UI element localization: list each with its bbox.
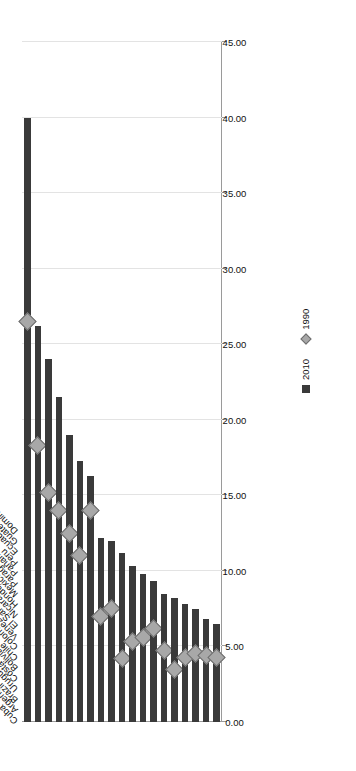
bar-group [35,326,42,722]
legend-diamond-icon [300,333,311,344]
bar-2010 [108,541,115,722]
chart-legend: 20101990 [300,309,311,393]
value-axis-tick-label: 10.00 [215,565,255,576]
bar-2010 [45,359,52,722]
bar-2010 [24,118,31,722]
chart-figure-rotator: CubaArgentinaBrazilUruguayCosta RicaBoli… [0,0,356,771]
value-axis-tick-label: 35.00 [215,188,255,199]
bar-2010 [119,553,126,722]
value-axis-tick-label: 20.00 [215,414,255,425]
value-axis-tick-label: 15.00 [215,490,255,501]
bar-2010 [66,435,73,722]
bar-group [56,397,63,722]
value-axis-tick-label: 40.00 [215,112,255,123]
bar-group [45,359,52,722]
bar-group [213,624,220,722]
legend-square-icon [302,385,310,393]
value-axis-tick-label: 5.00 [215,641,255,652]
bar-group [203,619,210,722]
value-axis-tick-label: 25.00 [215,339,255,350]
bar-group [66,435,73,722]
legend-label: 1990 [300,309,311,330]
bar-2010 [98,538,105,722]
legend-item[interactable]: 2010 [300,359,311,393]
value-axis-tick-label: 30.00 [215,263,255,274]
bar-2010 [56,397,63,722]
marker-1990 [81,501,99,519]
bar-2010 [203,619,210,722]
value-axis-labels: 0.005.0010.0015.0020.0025.0030.0035.0040… [222,42,282,722]
bar-group [24,118,31,722]
bar-group [77,461,84,722]
bar-group [140,574,147,722]
bar-2010 [140,574,147,722]
bar-2010 [192,609,199,722]
bar-2010 [213,624,220,722]
category-axis-labels: CubaArgentinaBrazilUruguayCosta RicaBoli… [0,42,22,722]
value-axis-tick-label: 45.00 [215,37,255,48]
bar-group [192,609,199,722]
plot-area [22,42,222,722]
value-axis-tick-label: 0.00 [215,717,255,728]
legend-label: 2010 [300,359,311,380]
bar-group [98,538,105,722]
category-label: Dominican Republic [0,470,20,538]
legend-item[interactable]: 1990 [300,309,311,343]
bar-series-group [22,42,222,722]
bar-group [108,541,115,722]
bar-group [119,553,126,722]
bar-2010 [35,326,42,722]
chart-figure: CubaArgentinaBrazilUruguayCosta RicaBoli… [0,0,356,771]
bar-2010 [77,461,84,722]
